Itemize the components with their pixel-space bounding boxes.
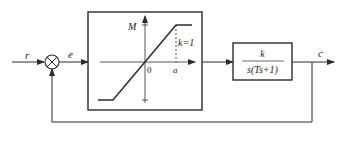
error-label-e: e [68,48,73,60]
output-label-c: c [318,47,323,59]
x-mark-label-a: a [173,65,178,75]
input-label-r: r [25,49,30,61]
saturation-block [88,12,202,110]
y-axis-label-M: M [127,21,137,32]
tf-numerator: k [260,48,265,59]
tf-denominator: s(Ts+1) [247,64,279,76]
origin-label: 0 [147,65,152,75]
slope-label: k=1 [178,37,194,48]
summing-junction-icon [45,55,59,69]
block-diagram: r e M 0 a k=1 k s(Ts+1) c [0,0,339,145]
